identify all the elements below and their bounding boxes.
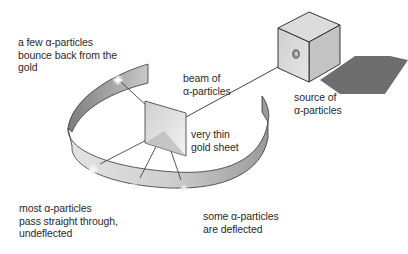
label-line: α-particles [183,85,231,98]
detector-ring-back-right [262,96,269,122]
label-line: some α-particles [203,210,279,223]
label-bounce-back: a few α-particles bounce back from the g… [18,36,117,74]
scintillation-flash-icon [112,74,124,86]
label-gold-sheet: very thin gold sheet [191,128,238,153]
label-line: bounce back from the [18,49,117,62]
label-line: pass straight through, [19,215,118,228]
label-line: very thin [191,128,238,141]
label-line: undeflected [19,227,118,240]
label-source: source of α-particles [294,91,342,116]
label-line: gold [18,61,117,74]
detector-ring-back [68,64,148,132]
label-line: beam of [183,72,231,85]
scintillation-flash-icon [87,164,99,176]
label-deflected: some α-particles are deflected [203,210,279,235]
label-line: are deflected [203,223,279,236]
label-beam: beam of α-particles [183,72,231,97]
scintillation-flash-icon [178,184,190,196]
label-line: a few α-particles [18,36,117,49]
source-box [278,12,340,82]
label-line: α-particles [294,104,342,117]
label-line: gold sheet [191,141,238,154]
label-straight-through: most α-particles pass straight through, … [19,202,118,240]
scintillation-flash-icon [128,182,140,194]
label-line: most α-particles [19,202,118,215]
label-line: source of [294,91,342,104]
